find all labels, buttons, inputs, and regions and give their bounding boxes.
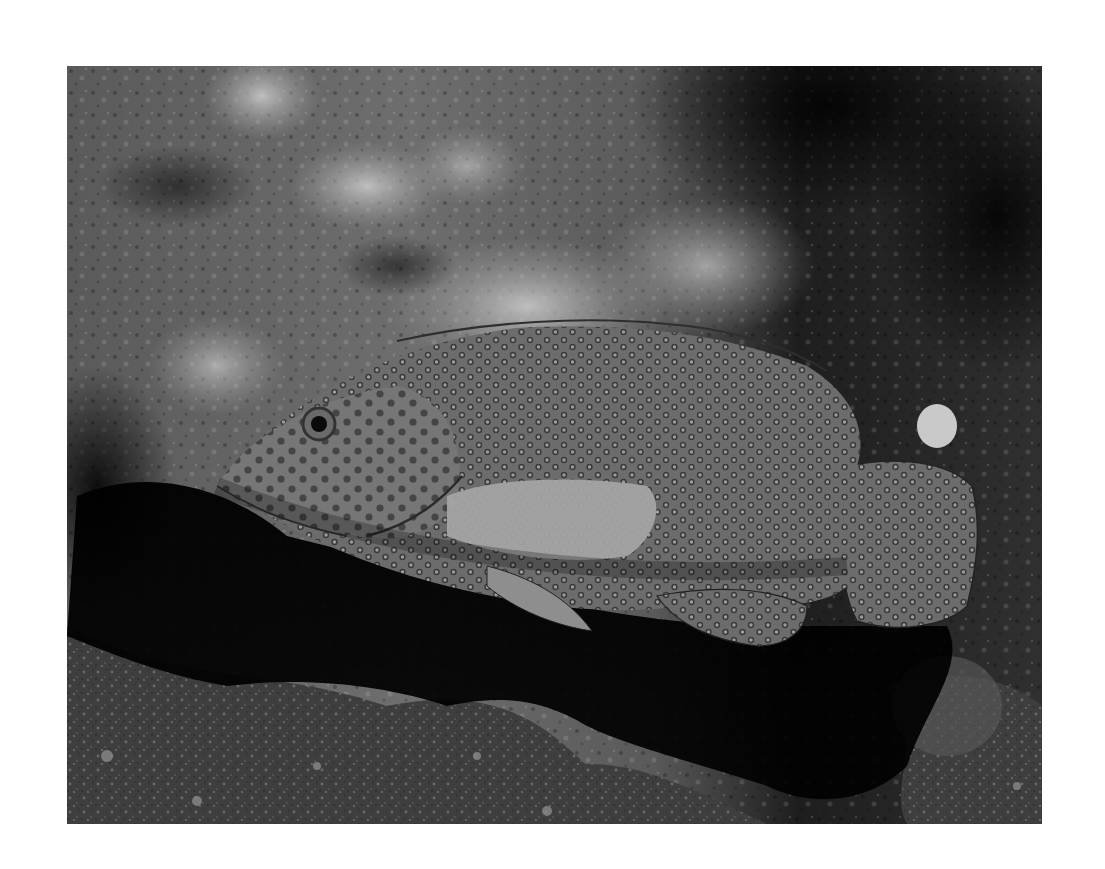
page: Grayscale underwater photograph of a spo… — [0, 0, 1105, 869]
tail-fin — [840, 461, 977, 627]
photo-illustration — [67, 66, 1042, 824]
grouper-photo: Grayscale underwater photograph of a spo… — [67, 66, 1042, 824]
white-sponge — [917, 404, 957, 448]
